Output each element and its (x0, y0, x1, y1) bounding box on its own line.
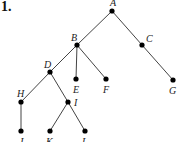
node-h (18, 99, 23, 104)
edge-a-b (77, 11, 112, 45)
node-label-i: I (73, 97, 78, 108)
node-label-f: F (102, 84, 110, 95)
node-label-k: K (45, 136, 54, 142)
tree-edges (21, 11, 173, 131)
node-j (18, 128, 23, 133)
node-e (73, 76, 78, 81)
edge-b-f (77, 45, 106, 79)
node-label-l: L (81, 136, 88, 142)
edge-c-g (142, 45, 173, 80)
edge-a-c (112, 11, 142, 45)
node-g (170, 77, 175, 82)
edge-b-e (76, 45, 77, 79)
node-label-a: A (109, 0, 117, 8)
edge-d-i (50, 72, 68, 102)
node-l (82, 128, 87, 133)
edge-d-h (21, 72, 50, 102)
node-label-b: B (71, 32, 77, 43)
edge-i-k (50, 102, 68, 131)
tree-labels: ABCDEFGHIJKL (16, 0, 176, 142)
node-label-g: G (169, 85, 176, 96)
node-c (139, 42, 144, 47)
node-d (47, 69, 52, 74)
node-label-d: D (43, 59, 52, 70)
node-a (109, 8, 114, 13)
node-k (47, 128, 52, 133)
edge-b-d (50, 45, 77, 72)
node-f (103, 76, 108, 81)
node-b (74, 42, 79, 47)
tree-nodes (18, 8, 175, 133)
tree-diagram: ABCDEFGHIJKL (0, 0, 179, 142)
node-label-h: H (16, 88, 25, 99)
node-label-e: E (72, 84, 79, 95)
node-label-j: J (19, 136, 24, 142)
node-i (65, 99, 70, 104)
node-label-c: C (146, 33, 153, 44)
